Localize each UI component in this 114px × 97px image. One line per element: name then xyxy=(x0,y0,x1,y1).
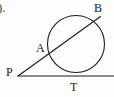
circle-shape xyxy=(48,16,105,73)
point-label-p: P xyxy=(6,66,13,78)
point-label-t: T xyxy=(70,81,77,93)
point-label-b: B xyxy=(94,2,102,14)
point-label-a: A xyxy=(36,42,45,54)
geometry-figure: ). B A P T xyxy=(0,0,114,97)
corner-enumeration-mark: ). xyxy=(0,1,6,14)
